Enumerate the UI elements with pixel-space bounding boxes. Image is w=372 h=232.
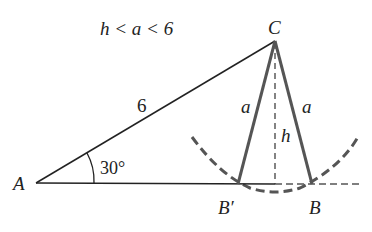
- side-ac: [36, 41, 275, 183]
- side-cb-prime-label: a: [241, 96, 251, 117]
- height-label: h: [281, 125, 291, 146]
- condition-label: h < a < 6: [100, 18, 174, 39]
- point-b-prime-label: B′: [218, 197, 235, 218]
- side-ac-label: 6: [137, 95, 147, 116]
- point-b-label: B: [309, 197, 321, 218]
- triangle-diagram: h < a < 6 C A B′ B 6 a a h 30°: [0, 0, 372, 232]
- point-c-label: C: [268, 17, 281, 38]
- angle-arc: [87, 153, 94, 183]
- side-cb-label: a: [302, 96, 312, 117]
- angle-label: 30°: [100, 158, 125, 178]
- point-a-label: A: [11, 173, 25, 194]
